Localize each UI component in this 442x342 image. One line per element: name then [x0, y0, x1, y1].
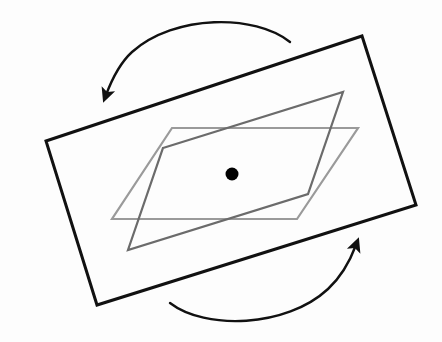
rotation-diagram: [0, 0, 442, 342]
figure-canvas: A tilted black rectangle with two overla…: [0, 0, 442, 342]
background-surface: [0, 0, 442, 342]
center-point-dot: [226, 168, 239, 181]
